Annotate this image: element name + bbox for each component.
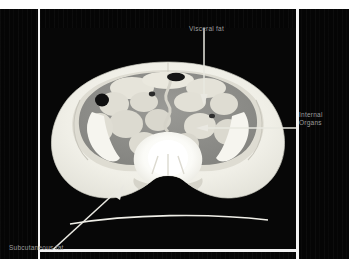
annotation-label-visceral-fat: Visceral fat: [189, 25, 224, 33]
bowel-gas-pocket: [95, 94, 109, 107]
bowel-gas-pocket: [149, 92, 155, 97]
page-bottom-margin: [0, 259, 349, 264]
annotation-label-internal-organs: Internal Organs: [299, 111, 349, 127]
annotation-label-subcutaneous-fat: Subcutaneous fat: [9, 244, 64, 252]
bowel-loop: [210, 93, 238, 115]
page-top-margin: [0, 0, 349, 9]
bowel-gas-pocket: [209, 114, 215, 118]
ct-image-frame: [40, 28, 299, 252]
annotation-label-internal-organs-line1: Internal: [299, 111, 349, 119]
bowel-gas-pocket: [167, 73, 185, 81]
annotation-label-internal-organs-line2: Organs: [299, 119, 349, 127]
left-frame-rule: [38, 9, 40, 259]
right-frame-rule: [296, 9, 299, 259]
ct-axial-abdomen-image: [40, 28, 296, 249]
slide-canvas: [0, 9, 349, 259]
